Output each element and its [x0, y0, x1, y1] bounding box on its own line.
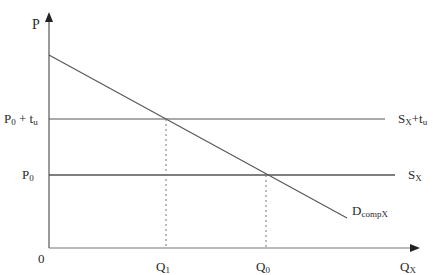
x-tick-q1: Q1 [156, 260, 170, 275]
origin-label: 0 [38, 252, 45, 265]
demand-line [49, 55, 347, 218]
x-axis-arrow-icon [410, 244, 420, 252]
x-axis-label: QX [400, 260, 416, 275]
y-axis-arrow-icon [45, 12, 53, 22]
supply-label: SX [408, 168, 422, 183]
supply-tariff-label: SX+tu [398, 112, 427, 127]
x-tick-q0: Q0 [256, 260, 270, 275]
y-tick-p0-plus-tu: P0 + tu [4, 112, 38, 127]
demand-label: DcompX [352, 204, 388, 219]
y-tick-p0: P0 [22, 168, 34, 183]
diagram-canvas [0, 0, 433, 275]
y-axis-label: P [32, 18, 40, 32]
